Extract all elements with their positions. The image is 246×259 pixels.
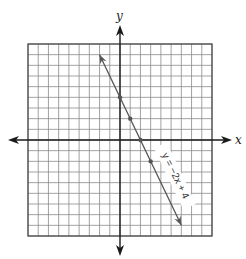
plotted-point [138,138,142,142]
x-axis-label: x [235,133,242,147]
plotted-point [128,116,132,120]
equation-label-group: y = −2x + 4 [154,142,196,209]
coordinate-plane: y = −2x + 4 x y [0,0,246,259]
y-axis-label: y [115,9,123,23]
axes [8,25,232,256]
plotted-point [118,95,122,99]
plotted-point [148,159,152,163]
